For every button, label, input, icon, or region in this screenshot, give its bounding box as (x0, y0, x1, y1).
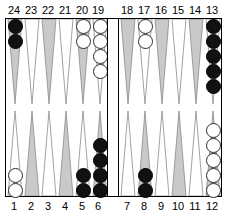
checker-black[interactable] (93, 168, 108, 183)
point-triangle-shape-11 (188, 111, 204, 196)
checker-stack-point-6[interactable] (92, 113, 108, 198)
checker-white[interactable] (93, 49, 108, 64)
backgammon-board: 242322212019181716151413 123456789101112 (0, 0, 228, 218)
point-number-7: 7 (118, 199, 136, 213)
checker-white[interactable] (206, 168, 221, 183)
point-triangle-shape-22 (41, 19, 57, 104)
point-number-24: 24 (5, 3, 23, 17)
checker-white[interactable] (206, 183, 221, 198)
point-number-10: 10 (169, 199, 187, 213)
checker-white[interactable] (93, 19, 108, 34)
point-triangle-shape-9 (154, 111, 170, 196)
checker-white[interactable] (93, 34, 108, 49)
point-triangle-3[interactable] (41, 111, 57, 196)
checker-black[interactable] (93, 138, 108, 153)
checker-black[interactable] (138, 183, 153, 198)
point-triangle-16[interactable] (154, 19, 170, 104)
point-number-18: 18 (118, 3, 136, 17)
checker-white[interactable] (206, 153, 221, 168)
point-triangle-10[interactable] (171, 111, 187, 196)
checker-black[interactable] (76, 183, 91, 198)
point-number-19: 19 (89, 3, 107, 17)
checker-black[interactable] (206, 49, 221, 64)
point-triangle-23[interactable] (24, 19, 40, 104)
checker-black[interactable] (206, 64, 221, 79)
quadrant-bottom-left (6, 111, 107, 198)
point-triangle-2[interactable] (24, 111, 40, 196)
point-number-15: 15 (169, 3, 187, 17)
point-triangle-18[interactable] (120, 19, 136, 104)
point-triangle-shape-4 (58, 111, 74, 196)
checker-white[interactable] (76, 34, 91, 49)
point-triangle-shape-23 (24, 19, 40, 104)
checker-white[interactable] (8, 183, 23, 198)
point-triangle-shape-21 (58, 19, 74, 104)
checker-black[interactable] (93, 153, 108, 168)
point-number-11: 11 (186, 199, 204, 213)
top-point-numbers: 242322212019181716151413 (0, 3, 228, 17)
point-number-17: 17 (135, 3, 153, 17)
point-number-3: 3 (39, 199, 57, 213)
checker-white[interactable] (206, 138, 221, 153)
point-triangle-11[interactable] (188, 111, 204, 196)
point-triangle-shape-14 (188, 19, 204, 104)
point-number-1: 1 (5, 199, 23, 213)
point-number-14: 14 (186, 3, 204, 17)
checker-stack-point-8[interactable] (137, 113, 153, 198)
point-triangle-9[interactable] (154, 111, 170, 196)
point-triangle-shape-18 (120, 19, 136, 104)
point-triangle-shape-15 (171, 19, 187, 104)
point-number-8: 8 (135, 199, 153, 213)
point-number-2: 2 (22, 199, 40, 213)
board-bar[interactable] (107, 19, 119, 196)
checker-stack-point-20[interactable] (75, 19, 91, 104)
checker-black[interactable] (206, 34, 221, 49)
point-number-16: 16 (152, 3, 170, 17)
checker-stack-point-24[interactable] (7, 19, 23, 104)
point-triangle-shape-3 (41, 111, 57, 196)
point-triangle-15[interactable] (171, 19, 187, 104)
point-triangle-22[interactable] (41, 19, 57, 104)
checker-black[interactable] (8, 19, 23, 34)
checker-black[interactable] (93, 183, 108, 198)
point-number-9: 9 (152, 199, 170, 213)
point-triangle-4[interactable] (58, 111, 74, 196)
checker-white[interactable] (138, 19, 153, 34)
checker-black[interactable] (8, 34, 23, 49)
checker-white[interactable] (138, 34, 153, 49)
checker-black[interactable] (206, 79, 221, 94)
checker-stack-point-13[interactable] (205, 19, 221, 104)
point-number-12: 12 (203, 199, 221, 213)
checker-stack-point-12[interactable] (205, 113, 221, 198)
point-triangle-14[interactable] (188, 19, 204, 104)
point-number-23: 23 (22, 3, 40, 17)
point-triangle-shape-2 (24, 111, 40, 196)
point-number-21: 21 (56, 3, 74, 17)
point-number-4: 4 (56, 199, 74, 213)
quadrant-top-right (119, 19, 220, 106)
checker-stack-point-1[interactable] (7, 113, 23, 198)
checker-black[interactable] (206, 19, 221, 34)
board-playing-surface (5, 18, 222, 197)
point-triangle-7[interactable] (120, 111, 136, 196)
point-triangle-shape-10 (171, 111, 187, 196)
checker-black[interactable] (138, 168, 153, 183)
checker-black[interactable] (76, 168, 91, 183)
checker-stack-point-17[interactable] (137, 19, 153, 104)
point-triangle-shape-7 (120, 111, 136, 196)
checker-stack-point-5[interactable] (75, 113, 91, 198)
bottom-point-numbers: 123456789101112 (0, 199, 228, 213)
checker-white[interactable] (206, 123, 221, 138)
point-triangle-shape-16 (154, 19, 170, 104)
point-number-6: 6 (89, 199, 107, 213)
checker-stack-point-19[interactable] (92, 19, 108, 104)
point-number-22: 22 (39, 3, 57, 17)
checker-white[interactable] (8, 168, 23, 183)
point-number-13: 13 (203, 3, 221, 17)
quadrant-bottom-right (119, 111, 220, 198)
quadrant-top-left (6, 19, 107, 106)
checker-white[interactable] (93, 64, 108, 79)
point-triangle-21[interactable] (58, 19, 74, 104)
checker-white[interactable] (76, 19, 91, 34)
